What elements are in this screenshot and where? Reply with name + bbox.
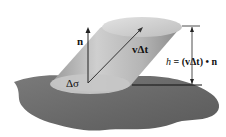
diagram-graphic: [0, 0, 226, 137]
base-area-ellipse: [50, 74, 130, 94]
flux-diagram: n vΔt Δσ h = (vΔt) • n: [0, 0, 226, 137]
normal-label: n: [77, 36, 83, 47]
velocity-label: vΔt: [132, 44, 148, 55]
height-formula: = (vΔt) • n: [171, 56, 217, 67]
height-arrow-up-icon: [190, 27, 194, 32]
top-ellipse: [102, 17, 182, 37]
height-arrow-down-icon: [190, 79, 194, 84]
height-equation: h = (vΔt) • n: [166, 57, 217, 67]
area-label: Δσ: [66, 78, 79, 89]
normal-arrowhead-icon: [86, 27, 91, 33]
